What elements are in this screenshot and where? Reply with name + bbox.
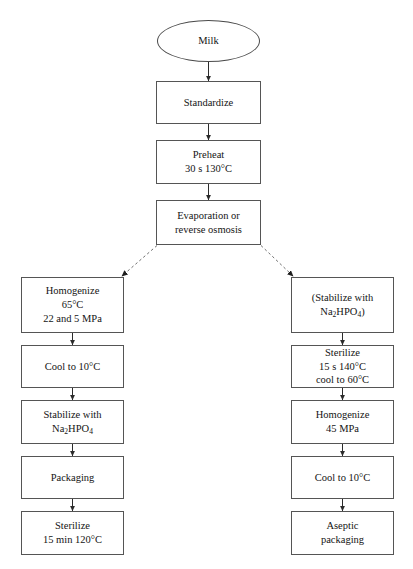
node-right-sterilize-line-2: 15 s 140°C	[319, 360, 366, 374]
node-right-aseptic[interactable]: Aseptic packaging	[291, 511, 394, 555]
node-left-sterilize-line-2: 15 min 120°C	[43, 533, 102, 547]
node-left-homogenize[interactable]: Homogenize 65°C 22 and 5 MPa	[21, 277, 124, 333]
node-left-cool-line-1: Cool to 10°C	[45, 360, 101, 374]
node-left-sterilize-line-1: Sterilize	[55, 519, 90, 533]
node-left-stabilize[interactable]: Stabilize with Na2HPO4	[21, 400, 124, 444]
connector-dashed-to-right-branch	[261, 246, 293, 277]
node-left-sterilize[interactable]: Sterilize 15 min 120°C	[21, 511, 124, 555]
node-right-stabilize-line-2: Na2HPO4)	[320, 305, 364, 319]
node-right-homogenize-line-1: Homogenize	[316, 408, 370, 422]
node-left-homogenize-line-2: 65°C	[62, 298, 84, 312]
node-left-stabilize-line-1: Stabilize with	[43, 408, 101, 422]
node-milk-label: Milk	[198, 34, 218, 48]
node-right-stabilize-line-1: (Stabilize with	[312, 291, 374, 305]
node-evaporation[interactable]: Evaporation or reverse osmosis	[156, 200, 261, 245]
node-left-homogenize-line-1: Homogenize	[46, 284, 100, 298]
node-right-stabilize[interactable]: (Stabilize with Na2HPO4)	[291, 277, 394, 333]
node-right-homogenize-line-2: 45 MPa	[326, 422, 359, 436]
node-evaporation-line-1: Evaporation or	[177, 209, 240, 223]
node-right-cool-line-1: Cool to 10°C	[315, 471, 371, 485]
connector-dashed-to-left-branch	[122, 246, 157, 277]
node-left-packaging-line-1: Packaging	[51, 471, 95, 485]
node-right-aseptic-line-1: Aseptic	[326, 519, 358, 533]
node-preheat[interactable]: Preheat 30 s 130°C	[156, 140, 261, 184]
node-left-homogenize-line-3: 22 and 5 MPa	[43, 312, 102, 326]
node-left-cool[interactable]: Cool to 10°C	[21, 345, 124, 388]
node-preheat-line-1: Preheat	[193, 148, 225, 162]
node-milk[interactable]: Milk	[157, 20, 260, 62]
node-preheat-line-2: 30 s 130°C	[185, 162, 232, 176]
node-right-sterilize-line-1: Sterilize	[325, 346, 360, 360]
node-left-packaging[interactable]: Packaging	[21, 456, 124, 499]
flowchart-canvas: Milk Standardize Preheat 30 s 130°C Evap…	[0, 0, 413, 569]
node-evaporation-line-2: reverse osmosis	[175, 223, 242, 237]
node-right-sterilize[interactable]: Sterilize 15 s 140°C cool to 60°C	[291, 345, 394, 388]
node-left-stabilize-line-2: Na2HPO4	[52, 422, 93, 436]
node-right-cool[interactable]: Cool to 10°C	[291, 456, 394, 499]
node-right-aseptic-line-2: packaging	[321, 533, 364, 547]
node-standardize[interactable]: Standardize	[156, 81, 261, 124]
node-right-homogenize[interactable]: Homogenize 45 MPa	[291, 400, 394, 444]
node-right-sterilize-line-3: cool to 60°C	[316, 373, 369, 387]
node-standardize-line-1: Standardize	[184, 96, 234, 110]
